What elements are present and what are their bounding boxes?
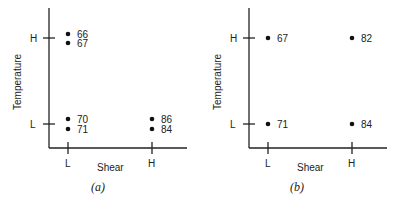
x-axis-label: Shear	[97, 162, 124, 173]
x-axis-label: Shear	[297, 162, 324, 173]
value-label: 82	[361, 33, 373, 44]
chart-b-plot: 67 82 71 84 H L L H Shear Temperature	[200, 0, 397, 180]
y-tick-l: L	[230, 119, 236, 130]
value-label: 71	[277, 119, 289, 130]
x-tick-h: H	[348, 158, 355, 169]
value-label: 67	[277, 33, 289, 44]
chart-a-plot: 66 67 70 71 86 84 H L L H Shear Temperat…	[0, 0, 200, 180]
chart-a: 66 67 70 71 86 84 H L L H Shear Temperat…	[0, 0, 200, 202]
y-tick-h: H	[30, 33, 37, 44]
x-tick-l: L	[65, 158, 71, 169]
chart-b: 67 82 71 84 H L L H Shear Temperature (b…	[200, 0, 397, 202]
value-label: 84	[361, 119, 373, 130]
panel-label-b: (b)	[290, 180, 304, 195]
x-tick-l: L	[265, 158, 271, 169]
y-axis-label: Temperature	[12, 53, 23, 110]
value-label: 71	[77, 124, 89, 135]
y-axis-label: Temperature	[212, 53, 223, 110]
value-label: 84	[161, 124, 173, 135]
y-tick-l: L	[30, 119, 36, 130]
panel-label-a: (a)	[91, 180, 105, 195]
y-tick-h: H	[230, 33, 237, 44]
x-tick-h: H	[148, 158, 155, 169]
value-label: 67	[77, 38, 89, 49]
